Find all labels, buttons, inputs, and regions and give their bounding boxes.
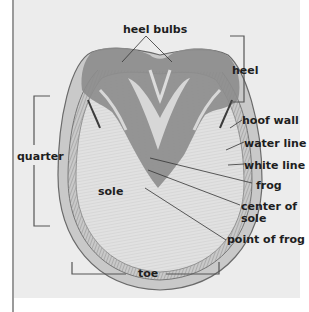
- label-hoof-wall: hoof wall: [242, 115, 299, 127]
- label-heel: heel: [232, 65, 259, 77]
- label-white-line: white line: [244, 160, 305, 172]
- label-water-line: water line: [244, 138, 306, 150]
- label-toe: toe: [138, 268, 158, 280]
- label-sole: sole: [98, 186, 123, 198]
- label-quarter: quarter: [17, 151, 64, 163]
- label-point-of-frog: point of frog: [227, 234, 305, 246]
- label-frog: frog: [256, 180, 282, 192]
- label-heel-bulbs: heel bulbs: [123, 24, 187, 36]
- label-center-of-sole-line2: sole: [241, 213, 266, 225]
